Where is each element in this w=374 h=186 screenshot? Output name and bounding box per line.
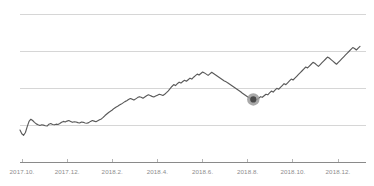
gridline-group xyxy=(20,15,366,126)
price-series-line xyxy=(20,46,360,135)
x-axis-tick-label: 2018.6. xyxy=(192,168,214,175)
x-axis-tick-label: 2018.4. xyxy=(147,168,169,175)
highlight-marker-core xyxy=(250,96,256,102)
x-axis-tick-label: 2018.8. xyxy=(237,168,259,175)
x-axis-tick-label: 2017.10. xyxy=(10,168,35,175)
x-axis-tick-label: 2017.12. xyxy=(55,168,80,175)
x-axis-tick-label: 2018.12. xyxy=(326,168,351,175)
chart-canvas: 2017.10.2017.12.2018.2.2018.4.2018.6.201… xyxy=(0,0,374,186)
highlight-marker[interactable] xyxy=(247,93,259,105)
x-axis-tick-label: 2018.10. xyxy=(280,168,305,175)
line-chart-container: 2017.10.2017.12.2018.2.2018.4.2018.6.201… xyxy=(0,0,374,186)
x-axis-tick-label-group: 2017.10.2017.12.2018.2.2018.4.2018.6.201… xyxy=(10,168,351,175)
x-axis-tick-label: 2018.2. xyxy=(102,168,124,175)
